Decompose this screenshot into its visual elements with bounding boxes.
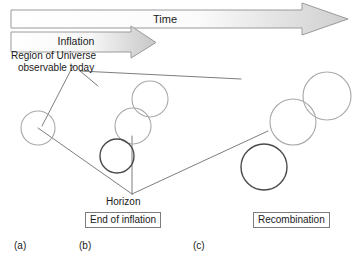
region-label-line1: Region of Universe xyxy=(11,50,96,61)
circle-b-top xyxy=(132,81,168,117)
time-arrow-label: Time xyxy=(0,13,330,25)
horizon-label: Horizon xyxy=(106,196,140,207)
circle-c-dark xyxy=(241,144,287,190)
panel-label-b: (b) xyxy=(79,240,91,251)
diagram-canvas: Time Inflation Region of Universe observ… xyxy=(0,0,359,261)
stage-box-end-of-inflation: End of inflation xyxy=(85,212,161,228)
circle-b-dark xyxy=(100,139,134,173)
stage-box-recombination: Recombination xyxy=(253,212,330,228)
region-observable-label: Region of Universe observable today xyxy=(11,50,129,73)
cone-right-edge-line xyxy=(132,131,268,194)
region-label-line2: observable today xyxy=(11,62,129,74)
circle-b-mid xyxy=(115,108,151,144)
panel-label-a: (a) xyxy=(14,240,26,251)
circle-c-top xyxy=(303,72,351,120)
region-tick-line xyxy=(80,71,98,86)
inflation-arrow-label: Inflation xyxy=(0,35,152,47)
circle-c-mid xyxy=(270,99,316,145)
panel-label-c: (c) xyxy=(193,240,205,251)
region-leader-line xyxy=(42,66,73,126)
